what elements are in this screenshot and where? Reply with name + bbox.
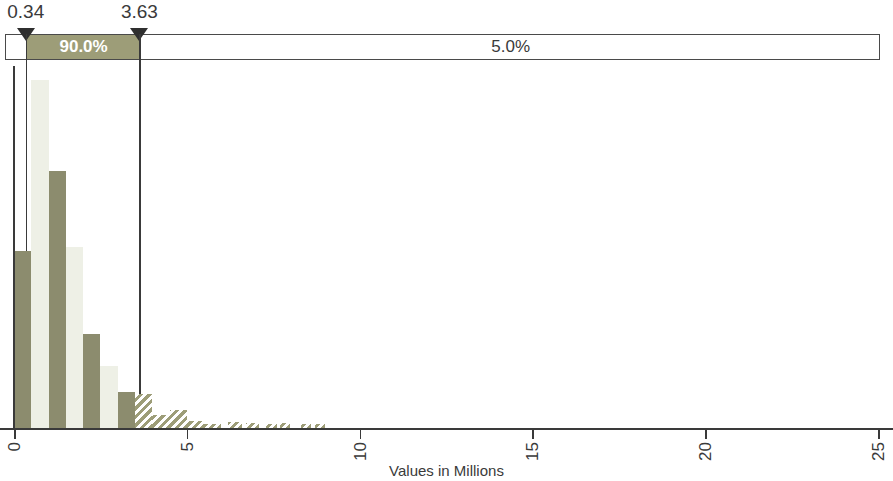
bar bbox=[152, 415, 169, 428]
bar bbox=[135, 394, 152, 428]
percentile-segment-right: 5.0% bbox=[140, 35, 881, 59]
bar bbox=[118, 392, 135, 428]
x-axis-tick-label: 15 bbox=[524, 442, 541, 461]
histogram-chart: 90.0% 5.0% 0.34 3.63 Values in Millions … bbox=[0, 0, 893, 481]
x-axis-tick-label: 20 bbox=[697, 442, 714, 461]
lower-percentile-value: 0.34 bbox=[7, 1, 44, 23]
bar bbox=[66, 247, 83, 428]
bar bbox=[100, 366, 117, 428]
x-axis-tick-label: 5 bbox=[179, 442, 196, 451]
x-axis-tick bbox=[14, 430, 16, 439]
x-axis-label: Values in Millions bbox=[0, 462, 893, 479]
plot-area bbox=[0, 66, 893, 430]
x-axis-tick bbox=[878, 430, 880, 439]
x-axis: Values in Millions 0510152025 bbox=[0, 430, 893, 481]
percentile-right-label: 5.0% bbox=[491, 37, 530, 57]
bar bbox=[31, 80, 48, 428]
upper-percentile-value: 3.63 bbox=[121, 1, 158, 23]
x-axis-tick-label: 0 bbox=[6, 442, 23, 451]
x-axis-tick bbox=[532, 430, 534, 439]
percentile-segment-middle: 90.0% bbox=[27, 35, 141, 59]
x-axis-tick-label: 10 bbox=[352, 442, 369, 461]
bar bbox=[170, 410, 187, 428]
bar bbox=[83, 334, 100, 428]
x-axis-tick bbox=[360, 430, 362, 439]
percentile-middle-label: 90.0% bbox=[59, 37, 107, 57]
bar bbox=[14, 251, 31, 428]
y-axis-line bbox=[13, 66, 15, 430]
x-axis-tick bbox=[705, 430, 707, 439]
bar-series bbox=[0, 66, 893, 428]
bar bbox=[49, 171, 66, 428]
x-axis-tick-label: 25 bbox=[870, 442, 887, 461]
x-axis-tick bbox=[187, 430, 189, 439]
